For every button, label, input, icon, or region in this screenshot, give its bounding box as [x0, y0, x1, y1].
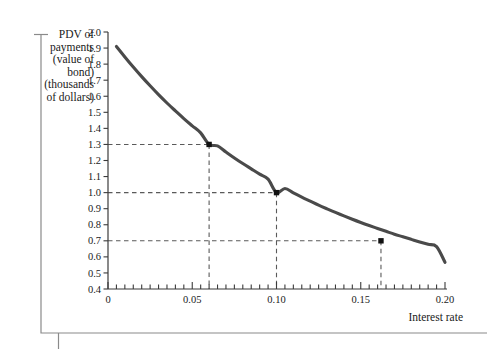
y-axis-title-line-1: payments: [44, 41, 94, 54]
y-tick-label: 1.2: [88, 155, 101, 166]
x-tick-label: 0.20: [436, 294, 454, 305]
y-tick-label: 0.5: [88, 268, 101, 279]
y-axis-title-line-5: of dollars): [44, 91, 94, 104]
y-tick-label: 0.9: [88, 203, 101, 214]
y-tick-label: 1.3: [88, 139, 101, 150]
data-point-marker: [274, 190, 279, 195]
y-axis-title-line-0: PDV of: [44, 28, 94, 41]
y-tick-label: 1.1: [88, 171, 101, 182]
y-tick-label: 0.8: [88, 219, 101, 230]
axes-group: [104, 32, 448, 289]
y-axis-title-line-4: (thousands: [44, 78, 94, 91]
x-axis-title: Interest rate: [408, 311, 463, 323]
y-tick-label: 0.7: [88, 235, 101, 246]
y-tick-label: 1.5: [88, 107, 101, 118]
y-axis-title-line-3: bond): [44, 66, 94, 79]
data-curve: [116, 46, 445, 262]
y-axis-title: PDV ofpayments(value ofbond)(thousandsof…: [44, 28, 94, 104]
data-point-marker: [206, 142, 211, 147]
data-point-marker: [378, 238, 383, 243]
page-border-decoration: [34, 34, 487, 349]
y-tick-label: 1.0: [88, 187, 101, 198]
pdv-curve: [116, 46, 445, 262]
y-axis-title-line-2: (value of: [44, 53, 94, 66]
x-tick-label: 0.10: [267, 294, 285, 305]
y-tick-label: 0.6: [88, 251, 101, 262]
x-tick-labels: 00.050.100.150.20: [105, 294, 454, 305]
x-tick-label: 0.05: [183, 294, 201, 305]
y-tick-label: 0.4: [88, 284, 102, 295]
figure-container: PDV ofpayments(value ofbond)(thousandsof…: [0, 0, 487, 349]
y-tick-label: 1.4: [88, 123, 102, 134]
x-tick-label: 0: [105, 294, 110, 305]
x-tick-label: 0.15: [352, 294, 370, 305]
